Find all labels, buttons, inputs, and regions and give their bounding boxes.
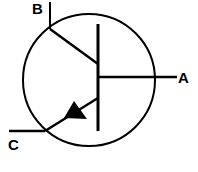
transistor-diagram: B A C <box>0 0 198 172</box>
emitter-arrow-icon <box>64 101 87 119</box>
transistor-envelope-circle <box>23 14 155 146</box>
label-b: B <box>32 0 43 17</box>
label-a: A <box>178 69 189 86</box>
lead-b-diagonal <box>50 29 98 64</box>
label-c: C <box>8 136 19 153</box>
